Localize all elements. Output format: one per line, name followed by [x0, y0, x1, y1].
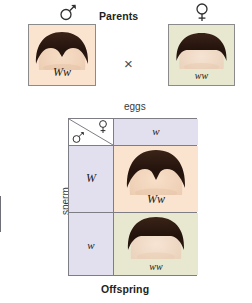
grid-vertical-divider [113, 119, 114, 275]
mother-straight-hairline-icon [174, 31, 229, 69]
offspring-genotype-label-Ww: Ww [114, 192, 198, 207]
parents-title: Parents [99, 10, 138, 22]
grid-horizontal-divider-header [69, 145, 196, 146]
cross-symbol: × [124, 55, 133, 72]
offspring-genotype-label-ww: ww [114, 261, 198, 272]
punnett-cell-ww: ww [114, 213, 198, 275]
punnett-cell-Ww: Ww [114, 146, 198, 212]
father-mars-male-symbol [58, 2, 78, 22]
grid-horizontal-divider-rows [69, 212, 196, 213]
offspring-widows-peak-hairline-icon [123, 147, 189, 195]
offspring-straight-hairline-icon [125, 214, 187, 259]
column-header-allele-label: w [114, 125, 198, 137]
eggs-axis-label: eggs [124, 101, 146, 112]
punnett-row-header-W: W [69, 146, 113, 212]
punnett-corner-cell [69, 119, 113, 145]
corner-venus-female-symbol [96, 119, 110, 133]
punnett-column-header-w: w [114, 119, 198, 145]
father-widows-peak-hairline-icon [33, 30, 91, 70]
punnett-square-figure: Parents [0, 0, 252, 303]
mother-genotype-label: ww [169, 70, 234, 81]
father-photo: Ww [28, 24, 96, 86]
mother-photo: ww [168, 24, 235, 86]
row-header-allele-label-recessive: w [69, 239, 113, 251]
offspring-title: Offspring [101, 283, 149, 295]
father-genotype-label: Ww [29, 65, 95, 80]
row-header-allele-label-dominant: W [69, 171, 113, 186]
punnett-row-header-w: w [69, 213, 113, 275]
corner-mars-male-symbol [71, 130, 86, 144]
scan-edge-artifact [0, 196, 1, 232]
mother-venus-female-symbol [192, 2, 212, 22]
punnett-grid: w W w [68, 118, 197, 276]
